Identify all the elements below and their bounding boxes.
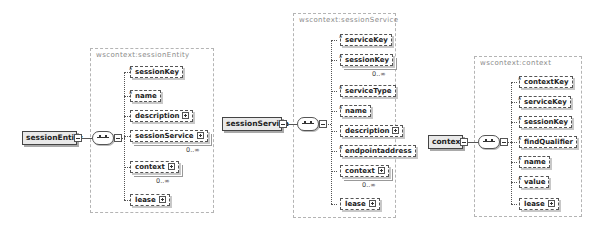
attribute-marker-icon: a: [339, 82, 342, 92]
root-element-context[interactable]: context: [428, 135, 463, 149]
root-element-session-service[interactable]: sessionService: [222, 117, 282, 131]
attribute-marker-icon: a: [518, 73, 521, 83]
child-element-description[interactable]: description: [340, 125, 403, 137]
attribute-marker-icon: a: [339, 51, 342, 61]
connector-line: [511, 204, 517, 205]
sequence-icon: [483, 141, 495, 143]
element-label: lease: [135, 196, 156, 204]
type-group-label: wscontext:sessionEntity: [96, 51, 190, 59]
child-element-lease[interactable]: lease: [340, 198, 380, 210]
collapse-icon[interactable]: [319, 120, 327, 128]
element-label: sessionKey: [135, 68, 179, 76]
connector-line: [511, 82, 517, 83]
connector-line: [331, 60, 337, 61]
attribute-marker-icon: a: [129, 63, 132, 73]
child-element-lease[interactable]: lease: [130, 194, 170, 206]
child-element-name[interactable]: a name: [340, 105, 371, 117]
attribute-marker-icon: a: [339, 102, 342, 112]
child-element-service-key[interactable]: a serviceKey: [340, 34, 392, 46]
element-label: serviceKey: [345, 36, 388, 44]
root-element-session-entity[interactable]: sessionEntity: [22, 131, 77, 145]
attribute-marker-icon: a: [518, 133, 521, 143]
connector-line: [511, 182, 517, 183]
connector-line: [511, 162, 517, 163]
occurrence-label: 0..∞: [186, 146, 200, 154]
attribute-marker-icon: a: [518, 93, 521, 103]
attribute-marker-icon: a: [339, 142, 342, 152]
connector-line: [328, 124, 331, 125]
connector-line: [331, 40, 332, 204]
child-element-lease[interactable]: lease: [519, 198, 559, 210]
child-element-endpointaddress[interactable]: a endpointaddress: [340, 145, 416, 157]
element-label: sessionService: [135, 132, 194, 140]
expand-icon[interactable]: [369, 200, 376, 207]
expand-icon[interactable]: [548, 200, 555, 207]
child-element-context-key[interactable]: a contextKey: [519, 76, 573, 88]
element-label: contextKey: [524, 78, 569, 86]
element-label: description: [135, 112, 179, 120]
element-label: name: [345, 107, 367, 115]
sequence-icon: [302, 123, 314, 125]
attribute-marker-icon: a: [518, 113, 521, 123]
child-element-session-service[interactable]: sessionService: [130, 130, 208, 142]
element-label: description: [345, 127, 389, 135]
element-label: findQualifier: [524, 138, 573, 146]
child-element-context[interactable]: context: [340, 165, 389, 177]
element-label: serviceType: [345, 87, 392, 95]
connector-line: [122, 138, 125, 139]
connector-line: [467, 142, 478, 143]
attribute-marker-icon: a: [518, 153, 521, 163]
element-label: name: [524, 158, 546, 166]
connector-line: [511, 142, 517, 143]
child-element-session-key[interactable]: a sessionKey: [130, 66, 183, 78]
element-label: value: [524, 178, 545, 186]
expand-icon[interactable]: [392, 127, 399, 134]
connector-line: [331, 171, 337, 172]
child-element-session-key[interactable]: a sessionKey: [519, 116, 572, 128]
element-label: endpointaddress: [345, 147, 412, 155]
element-label: sessionKey: [345, 56, 389, 64]
connector-line: [331, 111, 337, 112]
connector-line: [331, 40, 337, 41]
occurrence-label: 0..∞: [156, 177, 170, 185]
collapse-icon[interactable]: [114, 134, 122, 142]
expand-icon[interactable]: [182, 112, 189, 119]
element-label: context: [135, 163, 165, 171]
sequence-compositor[interactable]: [92, 131, 114, 145]
child-element-description[interactable]: description: [130, 110, 193, 122]
attribute-marker-icon: a: [339, 31, 342, 41]
child-element-name[interactable]: a name: [130, 90, 161, 102]
sequence-compositor[interactable]: [478, 135, 500, 149]
occurrence-label: 0..∞: [362, 181, 376, 189]
expand-icon[interactable]: [378, 167, 385, 174]
element-label: lease: [345, 200, 366, 208]
expand-icon[interactable]: [168, 163, 175, 170]
connector-line: [331, 204, 337, 205]
element-label: serviceKey: [524, 98, 567, 106]
expand-icon[interactable]: [197, 132, 204, 139]
sequence-icon: [97, 137, 109, 139]
sequence-compositor[interactable]: [297, 117, 319, 131]
connector-line: [81, 138, 92, 139]
element-label: name: [135, 92, 157, 100]
connector-line: [331, 131, 337, 132]
attribute-marker-icon: a: [129, 87, 132, 97]
child-element-service-key[interactable]: a serviceKey: [519, 96, 571, 108]
connector-line: [511, 122, 517, 123]
connector-line: [511, 102, 517, 103]
child-element-name[interactable]: a name: [519, 156, 550, 168]
type-group-label: wscontext:sessionService: [299, 16, 399, 24]
child-element-value[interactable]: a value: [519, 176, 549, 188]
child-element-find-qualifier[interactable]: a findQualifier: [519, 136, 577, 148]
child-element-session-key[interactable]: a sessionKey: [340, 54, 393, 66]
child-element-service-type[interactable]: a serviceType: [340, 85, 396, 97]
expand-icon[interactable]: [159, 196, 166, 203]
child-element-context[interactable]: context: [130, 161, 179, 173]
collapse-icon[interactable]: [500, 138, 508, 146]
element-label: sessionKey: [524, 118, 568, 126]
connector-line: [331, 151, 337, 152]
occurrence-label: 0..∞: [372, 70, 386, 78]
attribute-marker-icon: a: [518, 173, 521, 183]
connector-line: [331, 91, 337, 92]
connector-line: [511, 82, 512, 204]
